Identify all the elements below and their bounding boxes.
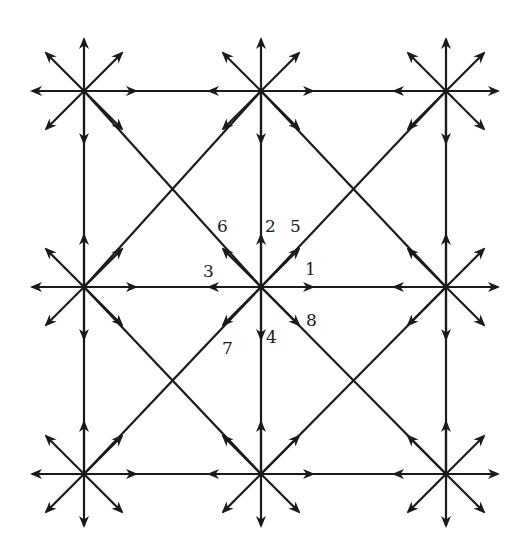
direction-arrow xyxy=(223,249,261,287)
direction-arrow xyxy=(261,249,299,287)
direction-arrow xyxy=(408,287,446,325)
direction-arrow xyxy=(84,249,122,287)
direction-arrow xyxy=(261,91,299,129)
direction-label-7: 7 xyxy=(222,340,233,357)
direction-arrow xyxy=(408,91,446,129)
direction-arrow xyxy=(408,249,446,287)
direction-label-1: 1 xyxy=(305,261,316,278)
direction-label-3: 3 xyxy=(203,263,214,280)
direction-arrow xyxy=(223,474,261,512)
direction-arrow xyxy=(408,474,446,512)
lattice-node xyxy=(82,89,87,94)
direction-arrow xyxy=(446,249,484,287)
direction-arrow xyxy=(408,53,446,91)
direction-arrow xyxy=(84,436,122,474)
direction-arrow xyxy=(84,91,122,129)
direction-arrow xyxy=(408,436,446,474)
lattice-node xyxy=(444,472,449,477)
direction-arrow xyxy=(446,287,484,325)
direction-arrow xyxy=(223,287,261,325)
direction-arrow xyxy=(46,474,84,512)
lattice-node xyxy=(82,285,87,290)
direction-arrow xyxy=(84,53,122,91)
direction-label-4: 4 xyxy=(266,329,277,346)
direction-arrow xyxy=(84,474,122,512)
direction-label-2: 2 xyxy=(265,218,276,235)
direction-arrow xyxy=(223,436,261,474)
direction-arrow xyxy=(46,53,84,91)
direction-label-6: 6 xyxy=(217,218,228,235)
direction-arrow xyxy=(46,249,84,287)
lattice-diagram xyxy=(0,0,519,554)
lattice-node xyxy=(259,472,264,477)
direction-arrow xyxy=(261,53,299,91)
lattice-node xyxy=(444,89,449,94)
lattice-node xyxy=(259,89,264,94)
direction-arrow xyxy=(446,474,484,512)
direction-arrow xyxy=(446,53,484,91)
direction-arrow xyxy=(446,436,484,474)
direction-arrow xyxy=(261,436,299,474)
lattice-node xyxy=(82,472,87,477)
lattice-node xyxy=(259,285,264,290)
direction-arrow xyxy=(261,287,299,325)
direction-arrow xyxy=(446,91,484,129)
direction-label-8: 8 xyxy=(306,312,317,329)
direction-arrow xyxy=(223,53,261,91)
direction-arrow xyxy=(261,474,299,512)
direction-arrow xyxy=(223,91,261,129)
direction-arrow xyxy=(84,287,122,325)
direction-arrow xyxy=(46,287,84,325)
direction-arrow xyxy=(46,91,84,129)
direction-label-5: 5 xyxy=(290,218,301,235)
direction-arrow xyxy=(46,436,84,474)
lattice-node xyxy=(444,285,449,290)
